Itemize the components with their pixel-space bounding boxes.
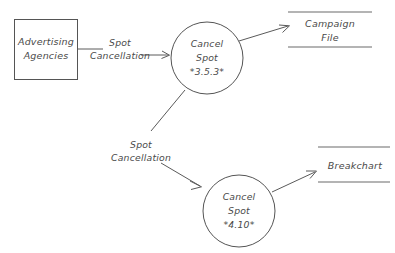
flow-agency-to-process-353[interactable]: Spot Cancellation [78, 37, 170, 61]
process-cancel-spot-410[interactable]: Cancel Spot *4.10* [203, 175, 275, 247]
flow-line-upper [151, 90, 185, 131]
flow-arrowhead [190, 181, 202, 190]
flow-line [272, 172, 315, 192]
external-entity-advertising-agencies[interactable]: Advertising Agencies [15, 20, 78, 80]
dataflow-diagram: Advertising Agencies Spot Cancellation C… [0, 0, 395, 253]
flow-process-353-to-process-410[interactable]: Spot Cancellation [111, 90, 201, 190]
external-entity-label-line2: Agencies [23, 50, 69, 61]
flow-label-line2: Cancellation [90, 50, 150, 61]
flow-arrowhead [306, 171, 317, 179]
flow-label-line1: Spot [109, 37, 131, 48]
process-label-line2: Spot [196, 52, 218, 63]
process-label-line1: Cancel [223, 191, 256, 202]
flow-process-410-to-breakchart[interactable] [272, 171, 317, 192]
flow-label-line2: Cancellation [111, 152, 171, 163]
process-label-line3: *3.5.3* [190, 66, 225, 77]
data-store-label-line1: Breakchart [328, 160, 383, 171]
data-store-campaign-file[interactable]: Campaign File [288, 12, 372, 47]
external-entity-label-line1: Advertising [17, 36, 74, 47]
data-store-label-line2: File [321, 32, 338, 43]
flow-line [239, 26, 288, 41]
process-label-line2: Spot [228, 205, 250, 216]
diagram-canvas: Advertising Agencies Spot Cancellation C… [0, 0, 395, 253]
data-store-breakchart[interactable]: Breakchart [318, 147, 390, 182]
process-label-line3: *4.10* [223, 219, 254, 230]
data-store-label-line1: Campaign [305, 18, 355, 29]
flow-process-353-to-campaign-file[interactable] [239, 25, 290, 41]
process-cancel-spot-353[interactable]: Cancel Spot *3.5.3* [171, 22, 243, 94]
process-label-line1: Cancel [191, 38, 224, 49]
flow-label-line1: Spot [130, 139, 152, 150]
